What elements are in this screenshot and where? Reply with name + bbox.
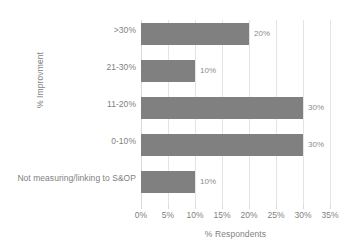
gridline-35 [330,20,331,205]
x-tick-label: 5% [153,210,183,220]
x-tick-mark [249,205,250,209]
bar-not-measuring [141,171,195,193]
bar-value-label: 20% [254,23,270,45]
y-axis-tick-label: Not measuring/linking to S&OP [0,173,136,183]
x-axis-title: % Respondents [141,229,330,239]
y-axis-tick-label: >30% [0,25,136,35]
x-tick-mark [276,205,277,209]
bar-chart: % Improvment >30% 21-30% 11-20% 0-10% No… [0,0,360,251]
x-tick-label: 35% [315,210,345,220]
bar-gt30 [141,23,249,45]
x-tick-mark [303,205,304,209]
bar-value-label: 10% [200,60,216,82]
x-tick-label: 10% [180,210,210,220]
bar-11-20 [141,97,303,119]
x-tick-mark [168,205,169,209]
x-tick-label: 30% [288,210,318,220]
x-tick-label: 25% [261,210,291,220]
bar-value-label: 30% [308,97,324,119]
y-axis-tick-label: 21-30% [0,62,136,72]
y-axis-tick-label: 0-10% [0,136,136,146]
y-axis-tick-labels: >30% 21-30% 11-20% 0-10% Not measuring/l… [0,20,136,205]
x-tick-mark [141,205,142,209]
x-tick-mark [222,205,223,209]
bar-21-30 [141,60,195,82]
x-tick-mark [330,205,331,209]
plot-area: 20% 10% 30% 30% 10% [141,20,330,205]
bar-value-label: 10% [200,171,216,193]
x-tick-label: 0% [126,210,156,220]
x-tick-label: 20% [234,210,264,220]
y-axis-tick-label: 11-20% [0,99,136,109]
x-tick-mark [195,205,196,209]
bar-0-10 [141,134,303,156]
bar-value-label: 30% [308,134,324,156]
x-axis-tick-labels: 0% 5% 10% 15% 20% 25% 30% 35% [141,205,330,227]
x-tick-label: 15% [207,210,237,220]
gridline-30 [303,20,304,205]
